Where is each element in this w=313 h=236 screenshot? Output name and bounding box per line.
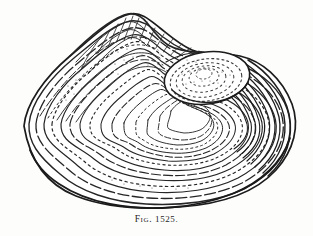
stipple-dot (188, 188, 189, 189)
stipple-dot (74, 94, 75, 95)
stipple-dot (140, 186, 141, 187)
figure-plate: Fig. 1525. (0, 0, 313, 236)
stipple-dot (60, 92, 61, 93)
stipple-dot (66, 100, 67, 101)
stipple-dot (124, 60, 125, 61)
stipple-dot (194, 82, 195, 83)
stipple-dot (84, 74, 85, 75)
stipple-dot (226, 86, 227, 87)
stipple-dot (108, 55, 109, 56)
stipple-dot (178, 57, 179, 58)
stipple-dot (168, 65, 169, 66)
stipple-dot (148, 65, 149, 66)
stipple-dot (168, 54, 169, 55)
stipple-dot (152, 188, 153, 189)
stipple-dot (112, 180, 113, 181)
figure-caption-number: 1525. (155, 214, 178, 224)
shell-outline (24, 14, 295, 208)
stipple-dot (111, 42, 112, 43)
stipple-dot (81, 87, 82, 88)
stipple-dot (164, 189, 165, 190)
stipple-dot (99, 59, 100, 60)
stipple-dot (222, 72, 223, 73)
stipple-dot (214, 70, 215, 71)
figure-caption-prefix: Fig. (135, 214, 152, 224)
bivalve-shell-illustration (0, 0, 313, 236)
stipple-dot (124, 184, 125, 185)
stipple-dot (230, 75, 231, 76)
stipple-dot (150, 53, 151, 54)
stipple-dot (106, 68, 107, 69)
stipple-dot (138, 67, 139, 68)
stipple-dot (198, 70, 199, 71)
stipple-dot (76, 80, 77, 81)
stipple-dot (118, 52, 119, 53)
stipple-dot (118, 74, 119, 75)
stipple-dot (195, 61, 196, 62)
stipple-dot (126, 48, 127, 49)
stipple-dot (132, 56, 133, 57)
stipple-dot (114, 63, 115, 64)
stipple-dot (67, 85, 68, 86)
stipple-dot (127, 69, 128, 70)
stipple-dot (95, 51, 96, 52)
stipple-dot (206, 69, 207, 70)
stipple-dot (187, 60, 188, 61)
stipple-dot (186, 84, 187, 85)
stipple-dot (90, 82, 91, 83)
stipple-dot (190, 72, 191, 73)
stipple-dot (120, 40, 121, 41)
stipple-dot (202, 81, 203, 82)
figure-caption: Fig. 1525. (0, 214, 313, 224)
stipple-dot (103, 46, 104, 47)
stipple-dot (142, 55, 143, 56)
stipple-dot (176, 189, 177, 190)
shell-body (24, 14, 295, 209)
stipple-dot (182, 74, 183, 75)
stipple-dot (157, 63, 158, 64)
stipple-dot (160, 54, 161, 55)
stipple-dot (210, 81, 211, 82)
stipple-dot (218, 83, 219, 84)
